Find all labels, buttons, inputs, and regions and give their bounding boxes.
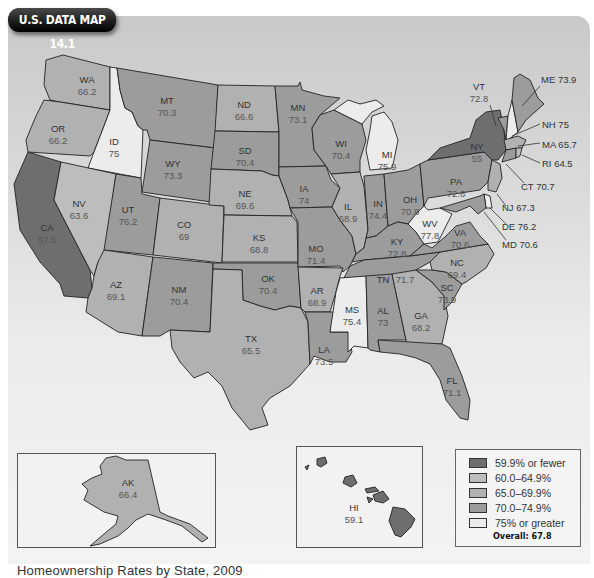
value-OH: 70.8 — [401, 206, 420, 217]
legend-label: 59.9% or fewer — [495, 457, 566, 469]
legend-item-bin1: 59.9% or fewer — [469, 456, 566, 470]
value-HI: 59.1 — [345, 514, 364, 525]
label-NY: NY — [470, 141, 484, 152]
legend-swatch — [469, 458, 487, 468]
value-PA: 72.6 — [447, 188, 466, 199]
value-ID: 75 — [109, 148, 120, 159]
label-AK: AK — [122, 477, 135, 488]
state-NY[interactable] — [428, 110, 506, 160]
value-CA: 57.5 — [38, 234, 57, 245]
value-KY: 72.8 — [388, 248, 407, 259]
label-NC: NC — [450, 257, 464, 268]
value-FL: 71.1 — [443, 387, 462, 398]
label-IN: IN — [373, 198, 383, 209]
value-NV: 63.6 — [70, 210, 89, 221]
legend-label: 75% or greater — [495, 517, 564, 529]
label-OH: OH — [403, 194, 417, 205]
legend-item-bin4: 70.0–74.9% — [469, 501, 551, 515]
label-MN: MN — [291, 102, 306, 113]
label-SD: SD — [238, 145, 251, 156]
label-FL: FL — [446, 375, 457, 386]
label-CA: CA — [40, 222, 54, 233]
value-IA: 74 — [299, 195, 310, 206]
legend-swatch — [469, 488, 487, 498]
label-CO: CO — [177, 219, 191, 230]
callout-RI: RI 64.5 — [542, 158, 573, 169]
value-UT: 76.2 — [119, 216, 138, 227]
value-AZ: 69.1 — [107, 291, 126, 302]
value-ND: 66.6 — [235, 111, 254, 122]
legend-overall: Overall: 67.8 — [493, 530, 552, 541]
callout-DE: DE 76.2 — [502, 221, 536, 232]
legend: 59.9% or fewer 60.0–64.9% 65.0–69.9% 70.… — [455, 449, 581, 547]
value-WV: 77.8 — [421, 230, 440, 241]
callout-ME: ME 73.9 — [541, 74, 576, 85]
label-AL: AL — [377, 305, 389, 316]
label-MS: MS — [345, 304, 359, 315]
state-RI[interactable] — [516, 148, 522, 158]
label-HI: HI — [349, 502, 359, 513]
label-NM: NM — [172, 284, 187, 295]
value-AK: 66.4 — [119, 489, 138, 500]
callout-NJ: NJ 67.3 — [502, 202, 535, 213]
state-HI[interactable] — [389, 507, 415, 537]
value-WI: 70.4 — [332, 150, 351, 161]
hawaii-inset: HI 59.1 — [296, 446, 423, 548]
label-SC: SC — [440, 282, 453, 293]
label-UT: UT — [122, 204, 135, 215]
value-OR: 66.2 — [49, 135, 68, 146]
map-caption: Homeownership Rates by State, 2009 — [17, 563, 243, 578]
value-MN: 73.1 — [289, 114, 308, 125]
legend-swatch — [469, 473, 487, 483]
label-GA: GA — [414, 310, 428, 321]
value-WY: 73.3 — [164, 170, 183, 181]
value-CO: 69 — [179, 231, 190, 242]
label-OR: OR — [51, 123, 65, 134]
label-OK: OK — [261, 273, 275, 284]
map-title-badge: U.S. DATA MAP 14.1 — [8, 8, 116, 32]
value-WA: 66.2 — [78, 86, 97, 97]
value-NY: 55 — [472, 153, 483, 164]
value-SD: 70.4 — [236, 157, 255, 168]
legend-item-bin5: 75% or greater — [469, 516, 564, 530]
state-ME[interactable] — [512, 74, 544, 132]
value-VA: 70.6 — [451, 239, 470, 250]
callout-NH: NH 75 — [542, 119, 569, 130]
label-ND: ND — [237, 99, 251, 110]
label-VA: VA — [454, 227, 467, 238]
label-NE: NE — [238, 188, 251, 199]
value-AL: 73 — [378, 317, 389, 328]
callout-CT: CT 70.7 — [521, 181, 555, 192]
value-SC: 73.9 — [438, 294, 457, 305]
legend-label: 70.0–74.9% — [495, 502, 551, 514]
value-NC: 69.4 — [448, 269, 467, 280]
legend-swatch — [469, 518, 487, 528]
hawaii-map: HI 59.1 — [297, 447, 422, 547]
label-WA: WA — [80, 74, 96, 85]
legend-swatch — [469, 503, 487, 513]
legend-label: 60.0–64.9% — [495, 472, 551, 484]
label-IL: IL — [344, 201, 352, 212]
label-TX: TX — [245, 333, 258, 344]
legend-label: 65.0–69.9% — [495, 487, 551, 499]
value-MO: 71.4 — [307, 255, 326, 266]
label-AZ: AZ — [110, 279, 122, 290]
label-MT: MT — [160, 95, 174, 106]
callout-MD: MD 70.6 — [502, 239, 538, 250]
alaska-inset: AK 66.4 — [17, 453, 216, 548]
value-OK: 70.4 — [259, 285, 278, 296]
label-NV: NV — [72, 198, 86, 209]
label-IA: IA — [300, 183, 310, 194]
label-PA: PA — [450, 176, 463, 187]
value-MI: 75.9 — [378, 161, 397, 172]
label-WI: WI — [335, 138, 347, 149]
value-NE: 69.6 — [236, 200, 255, 211]
state-AK[interactable] — [82, 456, 208, 546]
label-MO: MO — [308, 243, 323, 254]
value-IN: 74.4 — [369, 210, 388, 221]
legend-item-bin3: 65.0–69.9% — [469, 486, 551, 500]
label-WY: WY — [165, 158, 181, 169]
label-VT: VT — [473, 81, 485, 92]
value-TX: 65.5 — [242, 345, 261, 356]
value-MS: 75.4 — [343, 316, 362, 327]
